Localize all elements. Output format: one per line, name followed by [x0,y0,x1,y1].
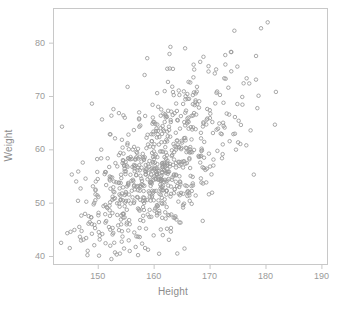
x-axis-label: Height [0,286,346,297]
plot-canvas [0,0,346,315]
y-tick-label: 60 [21,144,45,154]
y-axis-label: Weight [3,116,14,176]
x-tick-label: 150 [78,271,118,281]
y-tick-label: 70 [21,91,45,101]
x-tick-label: 180 [245,271,285,281]
y-tick-label: 80 [21,38,45,48]
x-tick-label: 170 [190,271,230,281]
y-tick-label: 40 [21,251,45,261]
x-tick-label: 160 [134,271,174,281]
y-tick-label: 50 [21,198,45,208]
x-tick-label: 190 [301,271,341,281]
scatter-plot-figure: Height Weight 1501601701801904050607080 [0,0,346,315]
